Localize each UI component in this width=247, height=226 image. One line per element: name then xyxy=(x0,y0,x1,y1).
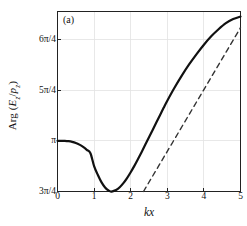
y-tick-label: 5π/4 xyxy=(16,85,56,95)
panel-label: (a) xyxy=(63,14,74,25)
x-tick-label: 5 xyxy=(229,191,247,201)
x-axis-label: kx xyxy=(56,206,242,218)
axis-ticks xyxy=(58,39,241,191)
x-tick-label: 0 xyxy=(46,191,70,201)
y-tick-label: π xyxy=(16,135,56,145)
x-tick-label: 2 xyxy=(119,191,143,201)
series-asymptote xyxy=(144,28,241,192)
x-tick-label: 4 xyxy=(192,191,216,201)
series-phase xyxy=(58,17,241,192)
axes-frame xyxy=(58,12,241,192)
x-tick-label: 3 xyxy=(155,191,179,201)
y-tick-label: 6π/4 xyxy=(16,34,56,44)
gridlines xyxy=(58,12,241,192)
figure-panel-a: Arg (Ez/pz) 3π/4π5π/46π/4 (a) 012345 kx xyxy=(0,0,246,226)
x-axis-tick-labels: 012345 xyxy=(0,191,246,205)
data-series xyxy=(58,17,241,192)
x-tick-label: 1 xyxy=(82,191,106,201)
